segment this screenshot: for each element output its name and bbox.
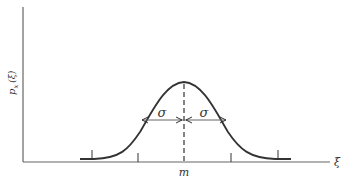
sigma-right-label: σ [200,105,210,120]
sigma-left-label: σ [158,105,168,120]
svg-text:px(ξ): px(ξ) [6,70,20,95]
mean-label: m [179,166,189,179]
y-axis-label: px(ξ) [6,70,20,95]
gaussian-diagram: σ σ m ξ px(ξ) [0,0,350,181]
x-axis-label: ξ [334,156,341,169]
y-label-sub: x [12,85,20,89]
y-label-arg: (ξ) [7,70,17,82]
